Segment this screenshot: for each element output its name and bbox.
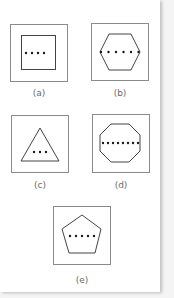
triangle-shape bbox=[21, 128, 59, 161]
hexagon-figure bbox=[91, 23, 149, 81]
pentagon-shape bbox=[62, 215, 101, 253]
octagon-figure bbox=[92, 114, 150, 173]
panel-d bbox=[92, 114, 150, 172]
label-c: (c) bbox=[11, 180, 69, 190]
panel-e bbox=[53, 206, 111, 264]
label-b: (b) bbox=[91, 88, 149, 98]
dots bbox=[25, 52, 45, 54]
triangle-figure bbox=[11, 115, 69, 173]
frame bbox=[12, 116, 69, 173]
label-a: (a) bbox=[10, 88, 68, 98]
frame bbox=[93, 115, 150, 173]
pentagon-figure bbox=[53, 206, 111, 265]
label-e: (e) bbox=[53, 275, 111, 285]
label-d: (d) bbox=[92, 180, 150, 190]
dots bbox=[100, 51, 140, 53]
panel-a bbox=[10, 24, 68, 82]
dots bbox=[69, 235, 95, 237]
panel-c bbox=[11, 115, 69, 173]
hexagon-shape bbox=[100, 34, 140, 70]
figure-page: (a) (b) (c) bbox=[0, 0, 160, 292]
panel-b bbox=[91, 23, 149, 81]
dots bbox=[102, 142, 139, 144]
dots bbox=[33, 151, 47, 153]
square-figure bbox=[10, 24, 68, 82]
